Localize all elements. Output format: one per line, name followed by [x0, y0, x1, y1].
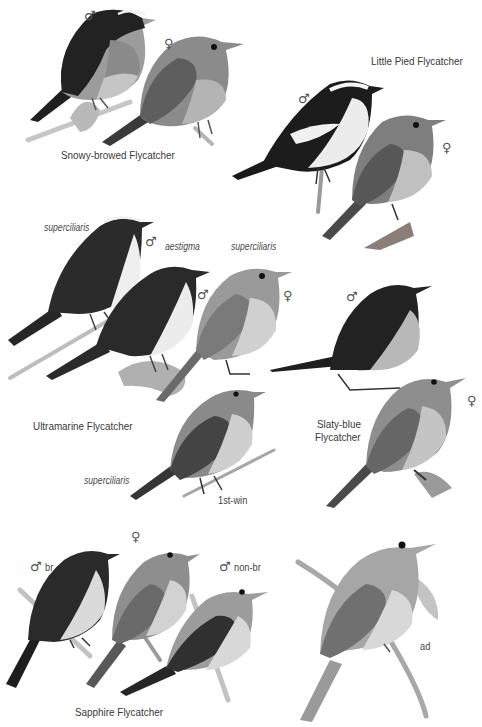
field-guide-plate: ♂ ♀ Snowy-browed Flycatcher Little Pied …: [0, 0, 482, 727]
adult-flycatcher-illustration: [0, 0, 482, 727]
adult-age-label: ad: [420, 641, 430, 652]
